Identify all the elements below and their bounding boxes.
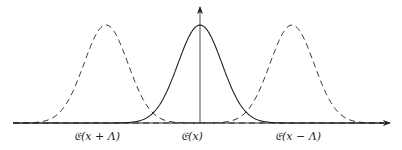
label-e-x: 𝔈(x) bbox=[181, 130, 203, 143]
label-e-x-minus-lambda: 𝔈(x − Λ) bbox=[275, 130, 321, 143]
curve-left-shifted bbox=[13, 25, 384, 123]
gaussian-shift-diagram bbox=[0, 0, 402, 150]
curve-center bbox=[13, 25, 384, 123]
curve-right-shifted bbox=[13, 25, 384, 123]
label-e-x-plus-lambda: 𝔈(x + Λ) bbox=[74, 130, 120, 143]
curves-layer bbox=[13, 25, 384, 123]
